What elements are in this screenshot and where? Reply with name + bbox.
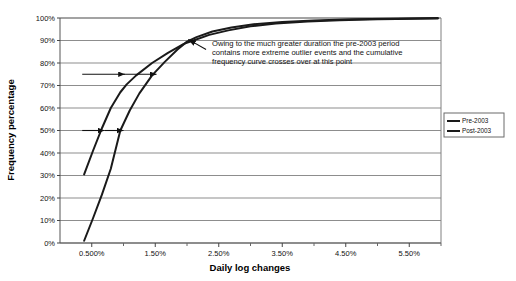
crossover-note-line: frequency curve crosses over at this poi… — [212, 57, 353, 66]
y-tick-label: 50% — [40, 126, 55, 135]
y-axis-title: Frequency percentage — [5, 79, 16, 180]
y-tick-label: 60% — [40, 104, 55, 113]
x-axis-title: Daily log changes — [210, 262, 291, 273]
x-tick-label: 3.50% — [272, 249, 294, 258]
y-tick-label: 0% — [44, 239, 55, 248]
x-tick-label: 1.50% — [145, 249, 167, 258]
chart-container: 0.500%1.50%2.50%3.50%4.50%5.50% 0%10%20%… — [0, 0, 516, 281]
crossover-note-line: Owing to the much greater duration the p… — [212, 39, 399, 48]
x-tick-label: 0.500% — [79, 249, 105, 258]
y-tick-label: 90% — [40, 36, 55, 45]
y-tick-label: 80% — [40, 59, 55, 68]
chart-legend: Pre-2003Post-2003 — [444, 113, 504, 137]
y-tick-label: 70% — [40, 81, 55, 90]
x-tick-label: 2.50% — [208, 249, 230, 258]
cumulative-frequency-chart: 0.500%1.50%2.50%3.50%4.50%5.50% 0%10%20%… — [0, 0, 516, 281]
y-tick-label: 30% — [40, 171, 55, 180]
y-tick-label: 10% — [40, 216, 55, 225]
y-tick-label: 100% — [36, 14, 56, 23]
x-tick-label: 5.50% — [399, 249, 421, 258]
legend-label: Post-2003 — [462, 127, 492, 134]
y-tick-label: 20% — [40, 194, 55, 203]
legend-label: Pre-2003 — [462, 117, 489, 124]
x-tick-label: 4.50% — [335, 249, 357, 258]
y-tick-label: 40% — [40, 149, 55, 158]
crossover-note-line: contains more extreme outlier events and… — [212, 48, 402, 57]
